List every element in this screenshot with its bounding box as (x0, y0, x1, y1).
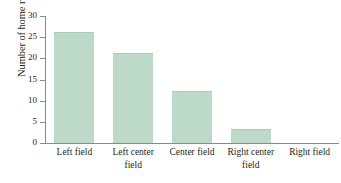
y-axis-tick-label: 15 (18, 73, 37, 86)
x-axis-label-line: field (104, 159, 163, 172)
y-axis-tick-mark (40, 143, 45, 144)
y-axis-tick-label: 10 (18, 94, 37, 107)
x-axis-label-line: Left field (57, 147, 93, 157)
x-axis-label: Right centerfield (221, 146, 280, 171)
bar (231, 129, 271, 143)
x-axis-label: Right field (280, 146, 339, 159)
y-axis-tick-label: 5 (18, 115, 37, 128)
bar (172, 91, 212, 143)
x-axis-label: Left field (45, 146, 104, 159)
x-axis-labels: Left fieldLeft centerfieldCenter fieldRi… (45, 146, 339, 180)
bar-slot (104, 16, 163, 143)
y-axis-tick-label: 30 (18, 9, 37, 22)
bar-slot (221, 16, 280, 143)
x-axis-label-line: Center field (169, 147, 214, 157)
y-axis-tick-label: 0 (18, 136, 37, 149)
bar (54, 32, 94, 143)
x-axis-label: Center field (163, 146, 222, 159)
bars-layer (45, 16, 339, 143)
bar-slot (280, 16, 339, 143)
x-axis-label-line: Right center (227, 147, 274, 157)
x-axis-line (45, 143, 339, 144)
y-axis-tick-label: 20 (18, 51, 37, 64)
bar-chart-figure: Number of home runs hit 051015202530 Lef… (0, 0, 341, 183)
x-axis-label: Left centerfield (104, 146, 163, 171)
bar-slot (163, 16, 222, 143)
x-axis-label-line: field (221, 159, 280, 172)
bar (113, 53, 153, 143)
x-axis-label-line: Right field (289, 147, 330, 157)
y-axis-tick-label: 25 (18, 30, 37, 43)
x-axis-label-line: Left center (112, 147, 153, 157)
bar-slot (45, 16, 104, 143)
